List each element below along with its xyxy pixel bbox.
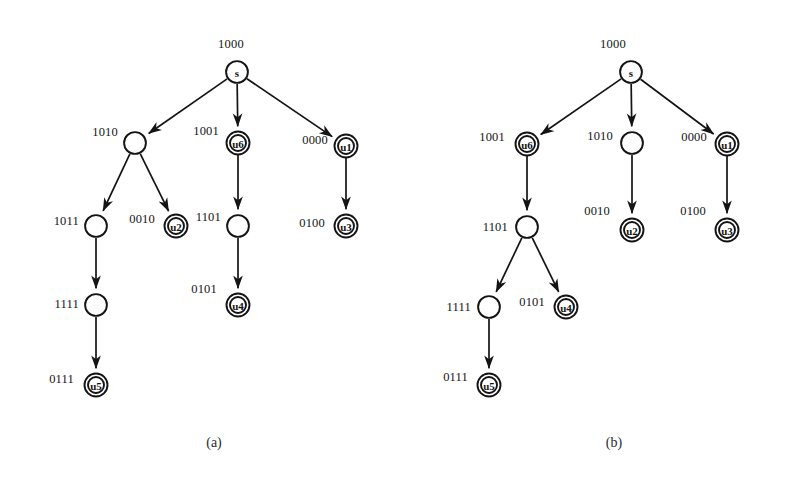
node-outer-circle	[227, 215, 249, 237]
node-bitstring-label: 1101	[483, 221, 508, 234]
node-bitstring-label: 0000	[302, 134, 328, 147]
node-bitstring-label: 0100	[299, 217, 325, 230]
node-bitstring-label: 1111	[447, 301, 471, 314]
graph-node-unlabeled[interactable]	[516, 216, 538, 238]
node-label-text: u3	[721, 225, 733, 237]
subfigure-caption-cap-b: (b)	[606, 435, 622, 451]
node-bitstring-label: 1010	[587, 130, 613, 143]
graph-node-unlabeled[interactable]	[227, 215, 249, 237]
graph-node-u1[interactable]: u1	[335, 135, 358, 158]
node-outer-circle	[478, 296, 500, 318]
node-label-text: u1	[340, 141, 352, 153]
node-outer-circle	[621, 132, 643, 154]
graph-node-unlabeled[interactable]	[85, 215, 107, 237]
graph-node-unlabeled[interactable]	[124, 132, 146, 154]
node-bitstring-label: 0100	[680, 205, 706, 218]
graph-node-s[interactable]: s	[226, 61, 248, 83]
node-label-text: u4	[232, 300, 244, 312]
node-label-text: u2	[170, 221, 182, 233]
node-bitstring-label: 0010	[129, 213, 155, 226]
node-outer-circle	[124, 132, 146, 154]
graph-node-u4[interactable]: u4	[555, 296, 578, 319]
graph-node-u3[interactable]: u3	[335, 215, 358, 238]
node-label-text: u6	[232, 138, 244, 150]
node-bitstring-label: 1000	[218, 38, 244, 51]
node-bitstring-label: 1001	[479, 131, 505, 144]
graph-node-u6[interactable]: u6	[516, 133, 539, 156]
node-label-text: u5	[90, 380, 102, 392]
node-outer-circle	[85, 215, 107, 237]
tree-edge	[541, 79, 621, 135]
graph-node-u5[interactable]: u5	[85, 374, 108, 397]
graph-node-unlabeled[interactable]	[621, 132, 643, 154]
tree-edge	[532, 238, 558, 292]
tree-edge	[496, 238, 522, 292]
node-bitstring-label: 0010	[584, 205, 610, 218]
node-label-text: s	[235, 67, 240, 79]
node-label-text: u6	[521, 139, 533, 151]
node-bitstring-label: 0000	[681, 131, 707, 144]
graph-node-u2[interactable]: u2	[621, 219, 644, 242]
node-label-text: u1	[721, 139, 733, 151]
tree-edge	[237, 84, 238, 126]
node-bitstring-label: 1010	[92, 126, 118, 139]
node-label-text: s	[629, 67, 634, 79]
graph-node-u1[interactable]: u1	[716, 133, 739, 156]
node-bitstring-label: 0101	[519, 296, 545, 309]
graph-node-unlabeled[interactable]	[478, 296, 500, 318]
graph-canvas: su6u1u2u3u4u5su6u1u2u3u4u5	[0, 0, 790, 484]
node-bitstring-label: 1101	[196, 211, 221, 224]
tree-edge	[140, 154, 168, 211]
figure-root: su6u1u2u3u4u5su6u1u2u3u4u5 1000101010010…	[0, 0, 790, 484]
node-label-text: u5	[483, 380, 495, 392]
subfigure-caption-cap-a: (a)	[206, 435, 222, 451]
graph-node-u6[interactable]: u6	[227, 132, 250, 155]
node-bitstring-label: 1000	[600, 38, 626, 51]
graph-node-u4[interactable]: u4	[227, 294, 250, 317]
tree-edge	[247, 79, 332, 137]
node-bitstring-label: 0111	[49, 373, 74, 386]
graph-node-u5[interactable]: u5	[478, 374, 501, 397]
graph-node-unlabeled[interactable]	[85, 294, 107, 316]
graph-node-u3[interactable]: u3	[716, 219, 739, 242]
node-bitstring-label: 0101	[191, 283, 217, 296]
graph-node-s[interactable]: s	[620, 61, 642, 83]
tree-edge	[631, 84, 632, 126]
node-bitstring-label: 1111	[55, 298, 79, 311]
node-outer-circle	[516, 216, 538, 238]
nodes-layer: su6u1u2u3u4u5su6u1u2u3u4u5	[85, 61, 739, 396]
node-label-text: u2	[626, 225, 638, 237]
graph-node-u2[interactable]: u2	[165, 215, 188, 238]
node-label-text: u4	[560, 302, 572, 314]
node-bitstring-label: 0111	[443, 371, 468, 384]
node-outer-circle	[85, 294, 107, 316]
node-bitstring-label: 1011	[54, 215, 79, 228]
node-label-text: u3	[340, 221, 352, 233]
node-bitstring-label: 1001	[193, 125, 219, 138]
tree-edge	[103, 154, 130, 211]
tree-edge	[641, 79, 714, 134]
